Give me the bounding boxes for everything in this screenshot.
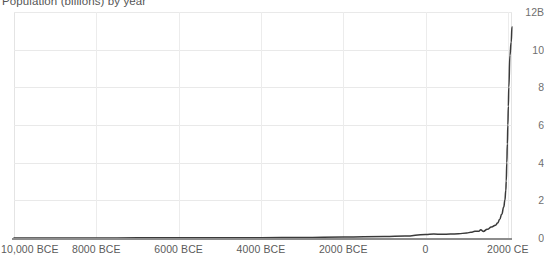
y-axis-tick-label: 4 <box>516 157 544 169</box>
x-axis-tick-label: 4000 BCE <box>237 243 286 255</box>
data-line-svg <box>14 12 512 238</box>
x-axis-tick-label: 2000 CE <box>487 243 529 255</box>
y-axis-tick-label: 6 <box>516 119 544 131</box>
y-axis-tick-label: 10 <box>516 44 544 56</box>
x-axis-tick-label: 0 <box>423 243 429 255</box>
chart-title: Population (billions) by year <box>2 0 146 8</box>
x-axis-tick-label: 6000 BCE <box>154 243 203 255</box>
y-axis-tick-label: 8 <box>516 81 544 93</box>
x-axis-baseline <box>12 238 512 240</box>
population-chart: Population (billions) by year 12B1086420… <box>0 0 544 260</box>
x-axis-tick-label: 2000 BCE <box>319 243 368 255</box>
y-axis-tick-label: 2 <box>516 194 544 206</box>
population-line <box>14 27 512 238</box>
y-axis-tick-label: 12B <box>516 6 544 18</box>
plot-area <box>14 12 512 238</box>
x-axis-tick-label: 8000 BCE <box>72 243 121 255</box>
x-axis-tick-label: 10,000 BCE <box>1 243 59 255</box>
